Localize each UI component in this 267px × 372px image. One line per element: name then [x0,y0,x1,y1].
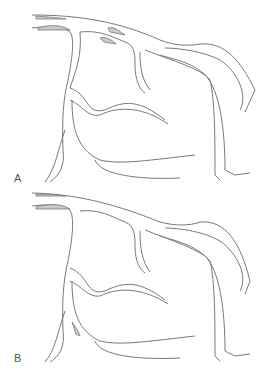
artery-diagram-a [0,0,267,186]
panel-label-a: A [14,172,21,184]
artery-diagram-b [0,186,267,372]
panel-a: A [0,0,267,186]
panel-b: B [0,186,267,372]
panel-label-b: B [14,352,21,364]
